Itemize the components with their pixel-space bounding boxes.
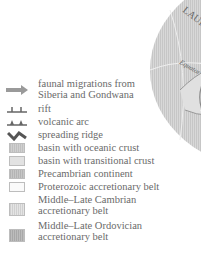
transitional-crust-swatch (9, 156, 25, 166)
ordovician-belt-swatch (9, 229, 25, 242)
legend-item-precambrian-continent: Precambrian continent (6, 168, 156, 180)
precambrian-continent-swatch (9, 169, 25, 179)
legend-item-transitional-crust: basin with transitional crust (6, 155, 156, 167)
legend-item-oceanic-crust: basin with oceanic crust (6, 142, 156, 154)
proterozoic-belt-swatch (9, 182, 25, 192)
oceanic-crust-swatch (9, 143, 25, 153)
legend-item-faunal-migrations: faunal migrations from Siberia and Gondw… (6, 78, 156, 102)
spreading-ridge-icon (6, 129, 28, 141)
legend-item-ordovician-belt: Middle–Late Ordovicianaccretionary belt (6, 220, 156, 244)
arrow-icon (6, 78, 28, 102)
legend-item-volcanic-arc: volcanic arc (6, 116, 156, 128)
cambrian-belt-swatch (9, 203, 25, 216)
legend-item-cambrian-belt: Middle–Late Cambrianaccretionary belt (6, 194, 156, 218)
legend-item-rift: rift (6, 103, 156, 115)
legend-item-proterozoic-belt: Proterozoic accretionary belt (6, 181, 156, 193)
rift-icon (6, 103, 28, 115)
volcanic-arc-icon (6, 116, 28, 128)
map-legend: faunal migrations from Siberia and Gondw… (6, 78, 156, 245)
legend-item-spreading-ridge: spreading ridge (6, 129, 156, 141)
